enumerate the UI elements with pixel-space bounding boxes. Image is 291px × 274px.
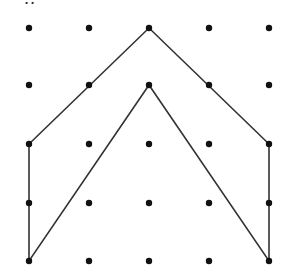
grid-dot [26,200,32,206]
grid-dot [86,141,92,147]
grid-dot [146,82,152,88]
grid-dot [86,200,92,206]
grid-dot [266,200,272,206]
grid-dot [206,141,212,147]
grid-dot [26,258,32,264]
grid-dot [26,25,32,31]
grid-dot [86,25,92,31]
grid-dot [206,200,212,206]
grid-dot [206,82,212,88]
grid-dot [266,25,272,31]
dot-grid-diagram [0,0,291,274]
grid-dot [86,82,92,88]
grid-dot [266,258,272,264]
grid-dot [146,25,152,31]
grid-dot [146,258,152,264]
grid-dot [86,258,92,264]
grid-dot [146,141,152,147]
grid-dot [26,141,32,147]
grid-dot [206,258,212,264]
grid-dot [26,82,32,88]
grid-dot [266,141,272,147]
grid-dot [146,200,152,206]
grid-dot [266,82,272,88]
grid-dot [206,25,212,31]
